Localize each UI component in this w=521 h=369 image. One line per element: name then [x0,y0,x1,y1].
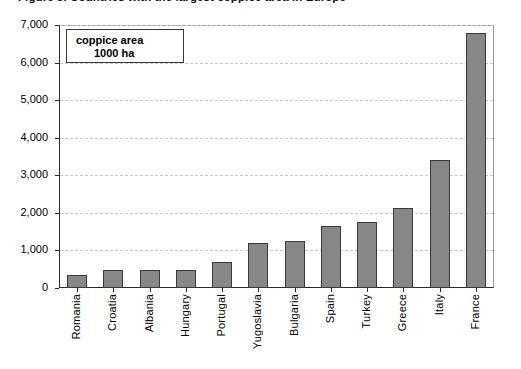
y-tick-label: 0 [42,282,48,293]
x-tick-label: Turkey [361,294,372,328]
x-tick-label: Italy [434,294,445,315]
bar [466,33,486,288]
x-tick-label: Croatia [107,294,118,331]
y-tick-label: 2,000 [20,207,48,218]
x-tick-mark [150,288,151,292]
x-tick-label: Spain [325,294,336,323]
x-tick-label: Romania [71,294,82,339]
figure-container: Figure 3. Countries with the largest cop… [0,0,521,369]
y-tick-label: 5,000 [20,94,48,105]
x-tick-mark [77,288,78,292]
x-tick-mark [476,288,477,292]
y-axis: 01,0002,0003,0004,0005,0006,0007,000 [0,0,56,369]
x-tick-label: Greece [397,294,408,331]
figure-title: Figure 3. Countries with the largest cop… [18,0,508,5]
x-tick-mark [403,288,404,292]
x-tick-label: Bulgaria [289,294,300,336]
x-tick-label: Portugal [216,294,227,337]
x-tick-label: Hungary [180,294,191,337]
y-tick-label: 3,000 [20,169,48,180]
x-axis: RomaniaCroatiaAlbaniaHungaryPortugalYugo… [59,288,494,369]
x-tick-mark [367,288,368,292]
x-tick-mark [222,288,223,292]
bar [140,270,160,288]
y-tick-label: 7,000 [20,19,48,30]
x-tick-label: France [470,294,481,329]
x-tick-mark [113,288,114,292]
x-tick-mark [440,288,441,292]
x-tick-label: Yugoslavia [252,294,263,349]
x-tick-mark [258,288,259,292]
bar [212,262,232,288]
bar [430,160,450,288]
bar [357,222,377,288]
bar [393,208,413,288]
y-tick-label: 4,000 [20,132,48,143]
bar [103,270,123,288]
bars-layer [59,25,494,288]
bar [285,241,305,288]
bar [67,275,87,288]
x-tick-label: Albania [144,294,155,332]
bar [248,243,268,288]
x-tick-mark [186,288,187,292]
x-tick-mark [295,288,296,292]
y-tick-label: 1,000 [20,244,48,255]
bar [321,226,341,288]
y-tick-label: 6,000 [20,57,48,68]
bar [176,270,196,288]
x-tick-mark [331,288,332,292]
